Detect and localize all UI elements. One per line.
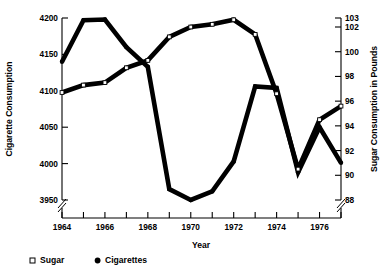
data-point-marker <box>81 18 85 22</box>
data-point-marker <box>253 33 257 37</box>
right-tick-label: 103 <box>345 13 359 23</box>
data-point-marker <box>189 198 193 202</box>
series-cigarettes <box>60 17 343 202</box>
data-point-marker <box>231 159 235 163</box>
data-point-marker <box>189 25 193 29</box>
data-point-marker <box>210 189 214 193</box>
data-point-marker <box>296 167 300 171</box>
legend-label-sugar: Sugar <box>40 255 65 265</box>
left-tick-label: 4050 <box>40 122 59 132</box>
right-tick-label: 100 <box>345 47 359 57</box>
x-axis-title: Year <box>192 240 211 250</box>
right-tick-label: 96 <box>345 96 355 106</box>
data-point-marker <box>82 83 86 87</box>
data-point-marker <box>210 22 214 26</box>
series-layer <box>60 17 343 202</box>
legend-marker-cigarettes <box>95 258 101 264</box>
left-tick-label: 4150 <box>40 49 59 59</box>
chart-figure: 395040004050410041504200 889092949698100… <box>0 0 385 274</box>
data-point-marker <box>339 161 343 165</box>
x-tick-label: 1972 <box>224 222 243 232</box>
left-tick-label: 4200 <box>40 13 59 23</box>
y2-axis-title: Sugar Consumption in Pounds <box>369 46 379 172</box>
left-tick-label: 4000 <box>40 159 59 169</box>
data-point-marker <box>60 59 64 63</box>
y-axis-title: Cigarette Consumption <box>4 61 14 156</box>
left-tick-label: 4100 <box>40 86 59 96</box>
data-point-marker <box>124 45 128 49</box>
chart-legend: SugarCigarettes <box>30 255 147 265</box>
x-axis-ticks: 1964196619681970197219741976 <box>53 212 341 232</box>
x-tick-label: 1970 <box>182 222 201 232</box>
left-tick-label: 3950 <box>40 195 59 205</box>
data-point-marker <box>318 118 322 122</box>
data-point-marker <box>275 92 279 96</box>
legend-marker-sugar <box>30 258 35 263</box>
x-tick-label: 1976 <box>310 222 329 232</box>
series-line <box>62 20 341 169</box>
data-point-marker <box>339 104 343 108</box>
x-tick-label: 1968 <box>139 222 158 232</box>
legend-label-cigarettes: Cigarettes <box>105 255 147 265</box>
dual-axis-line-chart: 395040004050410041504200 889092949698100… <box>0 0 385 274</box>
series-sugar <box>60 18 343 171</box>
data-point-marker <box>253 84 257 88</box>
data-point-marker <box>60 91 64 95</box>
left-axis-ticks: 395040004050410041504200 <box>40 13 68 205</box>
data-point-marker <box>103 17 107 21</box>
right-tick-label: 88 <box>345 195 355 205</box>
right-tick-label: 90 <box>345 170 355 180</box>
data-point-marker <box>146 58 150 62</box>
data-point-marker <box>232 18 236 22</box>
axes-group <box>58 18 345 218</box>
right-tick-label: 102 <box>345 22 359 32</box>
data-point-marker <box>124 66 128 70</box>
data-point-marker <box>167 35 171 39</box>
x-tick-label: 1964 <box>53 222 72 232</box>
x-tick-label: 1966 <box>96 222 115 232</box>
x-tick-label: 1974 <box>267 222 286 232</box>
right-tick-label: 92 <box>345 146 355 156</box>
data-point-marker <box>167 187 171 191</box>
data-point-marker <box>103 81 107 85</box>
right-tick-label: 98 <box>345 71 355 81</box>
data-point-marker <box>146 65 150 69</box>
right-tick-label: 94 <box>345 121 355 131</box>
